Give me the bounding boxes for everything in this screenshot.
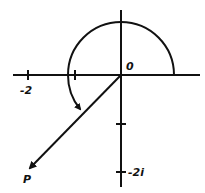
y-tick-label-neg2i: -2i xyxy=(128,166,144,179)
point-p-label: P xyxy=(23,173,31,186)
argand-diagram: 0 -2 -2i P xyxy=(0,0,205,193)
x-tick-label-neg2: -2 xyxy=(20,84,33,97)
origin-label: 0 xyxy=(126,60,134,73)
vector-op xyxy=(30,75,121,168)
